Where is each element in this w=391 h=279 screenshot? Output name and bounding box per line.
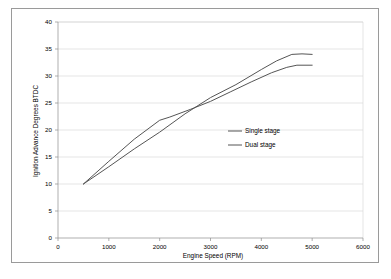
x-tick-label: 0 [56,243,60,250]
x-tick-label: 6000 [356,243,370,250]
y-tick-label: 5 [49,207,53,214]
x-tick-label: 5000 [305,243,319,250]
x-tick-label: 4000 [254,243,268,250]
gridlines-group [58,22,363,211]
x-tick-label: 2000 [153,243,167,250]
y-axis-title: Ignition Advance Degrees BTDC [32,85,40,177]
y-tick-label: 20 [45,126,52,133]
x-axis-ticks: 0100020003000400050006000 [56,238,370,250]
x-axis-title: Engine Speed (RPM) [183,252,243,260]
series-group [83,54,312,184]
legend-label: Single stage [245,127,281,135]
x-tick-label: 1000 [102,243,116,250]
series-line-dual-stage [83,54,312,184]
y-tick-label: 10 [45,180,52,187]
y-tick-label: 25 [45,99,52,106]
x-tick-label: 3000 [204,243,218,250]
chart-legend: Single stageDual stage [228,127,281,149]
y-tick-label: 35 [45,45,52,52]
y-tick-label: 15 [45,153,52,160]
y-tick-label: 40 [45,18,52,25]
y-tick-label: 30 [45,72,52,79]
legend-label: Dual stage [245,141,276,149]
y-axis-ticks: 0510152025303540 [45,18,58,241]
chart-container: 0510152025303540 01000200030004000500060… [0,0,391,279]
y-tick-label: 0 [49,234,53,241]
series-line-single-stage [83,65,312,184]
line-chart: 0510152025303540 01000200030004000500060… [0,0,391,279]
